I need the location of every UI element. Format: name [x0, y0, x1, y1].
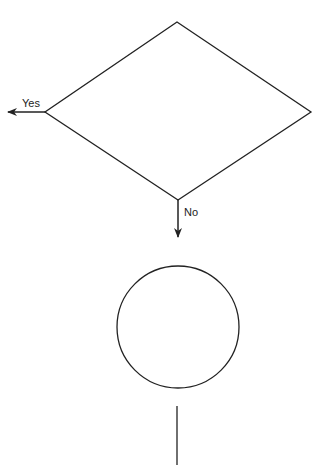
no-label: No: [184, 206, 198, 218]
connector-circle: [117, 266, 239, 388]
flowchart-canvas: Yes No: [0, 0, 317, 465]
yes-label: Yes: [22, 97, 40, 109]
decision-diamond: [45, 22, 311, 200]
